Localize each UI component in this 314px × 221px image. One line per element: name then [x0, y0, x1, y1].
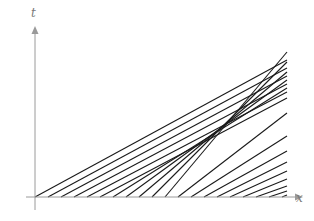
characteristic-line-15 [230, 171, 287, 197]
characteristic-line-17 [256, 186, 287, 197]
characteristic-line-14 [217, 162, 287, 197]
characteristic-line-7 [126, 80, 287, 197]
characteristic-line-0 [35, 60, 287, 197]
t-axis-label: t [31, 6, 36, 20]
characteristic-line-12 [191, 136, 287, 197]
x-axis-label: x [296, 191, 303, 205]
characteristic-line-1 [48, 68, 287, 197]
characteristic-line-3 [74, 84, 287, 197]
characteristic-line-4 [87, 92, 287, 197]
characteristics-diagram: t x [0, 0, 314, 221]
characteristic-line-8 [139, 72, 287, 197]
characteristic-lines [35, 52, 287, 197]
t-axis-arrow-icon [32, 26, 39, 34]
